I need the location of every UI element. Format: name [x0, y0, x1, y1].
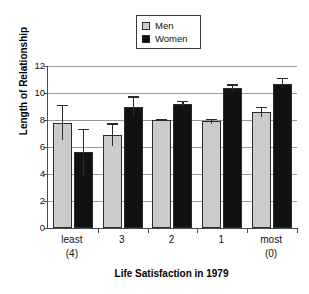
error-bar-line — [62, 105, 63, 139]
category-label-line1: 2 — [147, 234, 197, 245]
bar-women — [273, 84, 292, 228]
bar-group — [247, 66, 297, 228]
x-axis-tick — [247, 228, 248, 233]
x-axis-tick — [148, 228, 149, 233]
x-axis-category-label: 1 — [196, 234, 246, 245]
category-label-line1: most — [246, 234, 296, 245]
category-label-line2: (4) — [47, 248, 97, 259]
bar-chart-figure: Men Women Length of Relationship 0246810… — [0, 0, 309, 294]
error-bar-cap-top — [206, 119, 217, 120]
y-axis-tick-label: 2 — [40, 195, 45, 206]
chart-legend: Men Women — [136, 15, 201, 49]
error-bar-line — [133, 96, 134, 116]
category-label-line2: (0) — [246, 248, 296, 259]
y-axis-tick-label: 10 — [34, 87, 45, 98]
bar-men — [152, 120, 171, 228]
bar-men — [252, 112, 271, 228]
bar-group — [197, 66, 247, 228]
bar-women — [173, 104, 192, 228]
bar-men — [202, 121, 221, 228]
legend-swatch-men-icon — [142, 22, 150, 30]
bar-group — [148, 66, 198, 228]
x-axis-category-label: 3 — [97, 234, 147, 245]
error-bar-cap-top — [277, 78, 288, 79]
x-axis-tick-end — [297, 228, 298, 233]
error-bar-line — [112, 123, 113, 146]
y-axis-title: Length of Relationship — [18, 0, 29, 162]
x-axis-title: Life Satisfaction in 1979 — [47, 268, 296, 279]
y-axis-tick-label: 12 — [34, 60, 45, 71]
y-axis-tick-label: 6 — [40, 141, 45, 152]
x-axis-tick — [98, 228, 99, 233]
x-axis-category-label: least(4) — [47, 234, 97, 259]
legend-swatch-women-icon — [142, 35, 150, 43]
error-bar-cap-top — [227, 84, 238, 85]
plot-area: 024681012 — [47, 66, 297, 229]
x-axis-category-label: 2 — [147, 234, 197, 245]
error-bar-cap-top — [107, 123, 118, 124]
error-bar-cap-top — [177, 101, 188, 102]
bar-women — [223, 88, 242, 228]
y-axis-tick-label: 4 — [40, 168, 45, 179]
category-label-line1: 3 — [97, 234, 147, 245]
legend-label-men: Men — [155, 20, 173, 31]
y-axis-tick-label: 0 — [40, 222, 45, 233]
error-bar-cap-top — [156, 119, 167, 120]
category-label-line1: least — [47, 234, 97, 245]
bar-women — [124, 107, 143, 229]
error-bar-line — [282, 78, 283, 89]
bar-group — [98, 66, 148, 228]
x-axis-category-label: most(0) — [246, 234, 296, 259]
error-bar-cap-top — [128, 96, 139, 97]
bar-men — [103, 135, 122, 228]
legend-item-women: Women — [142, 32, 195, 45]
x-axis-tick — [197, 228, 198, 233]
legend-label-women: Women — [155, 33, 188, 44]
error-bar-cap-top — [256, 107, 267, 108]
y-axis-tick-label: 8 — [40, 114, 45, 125]
error-bar-line — [83, 129, 84, 176]
error-bar-cap-top — [78, 129, 89, 130]
legend-item-men: Men — [142, 19, 195, 32]
category-label-line1: 1 — [196, 234, 246, 245]
error-bar-line — [261, 107, 262, 116]
bar-group — [48, 66, 98, 228]
error-bar-cap-top — [57, 105, 68, 106]
